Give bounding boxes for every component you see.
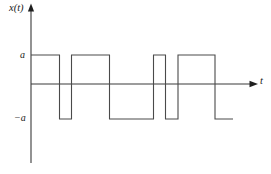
signal-trace xyxy=(31,55,233,119)
t-axis-arrowhead xyxy=(250,81,259,88)
y-axis-arrowhead xyxy=(28,4,34,12)
waveform-figure: x(t) t a −a xyxy=(0,0,271,174)
y-tick-label-negative-a: −a xyxy=(14,113,26,123)
waveform-plot xyxy=(0,0,271,174)
y-axis-label: x(t) xyxy=(9,3,24,14)
x-axis-label: t xyxy=(260,76,263,87)
y-tick-label-positive-a: a xyxy=(20,50,25,60)
